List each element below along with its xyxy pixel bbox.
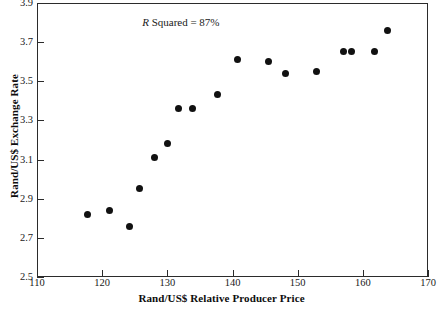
x-axis-tick-label: 130 [147,278,187,289]
y-axis-tick-label: 3.7 [0,37,33,48]
data-point [164,140,171,147]
data-point [151,154,158,161]
r-squared-symbol: R [142,16,149,28]
x-axis-tick-label: 160 [343,278,383,289]
y-axis-title: Rand/US$ Exchange Rate [8,74,20,198]
data-point [384,27,391,34]
data-point [313,68,320,75]
y-axis-tick-label: 2.7 [0,233,33,244]
data-point [340,48,347,55]
x-axis-tick-label: 110 [17,278,57,289]
y-axis-tick-label: 3.9 [0,0,33,9]
x-axis-tick-label: 150 [278,278,318,289]
x-axis-title: Rand/US$ Relative Producer Price [0,292,443,304]
data-point [234,56,241,63]
data-point [282,70,289,77]
data-point [214,91,221,98]
data-point [371,48,378,55]
x-axis-tick-label: 170 [408,278,443,289]
y-axis-title-wrap: Rand/US$ Exchange Rate [0,126,124,144]
data-point [175,105,182,112]
x-axis-tick-label: 120 [82,278,122,289]
x-axis-tick-label: 140 [213,278,253,289]
data-point [106,207,113,214]
data-point [136,185,143,192]
r-squared-annotation: R Squared = 87% [142,16,219,28]
data-point [189,105,196,112]
x-axis-tick [428,270,429,277]
data-point [126,223,133,230]
data-point [348,48,355,55]
scatter-plot-figure: 2.52.72.93.13.33.53.73.9 110120130140150… [0,0,443,310]
data-point [84,211,91,218]
data-point [265,58,272,65]
r-squared-value: Squared = 87% [149,16,220,28]
